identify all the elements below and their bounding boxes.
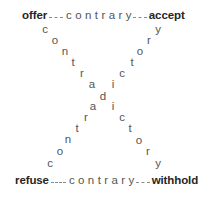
diagonal-letter: c	[119, 68, 125, 80]
diagonal-letter: o	[136, 135, 142, 147]
term-refuse: refuse	[15, 174, 49, 186]
diagonal-letter: n	[65, 134, 71, 146]
diagonal-letter: c	[42, 24, 48, 36]
dashed-connector	[49, 17, 63, 18]
diagonal-letter: n	[62, 46, 68, 58]
diagonal-letter: i	[112, 79, 115, 91]
diagonal-letter: c	[119, 112, 125, 124]
diagonal-letter: r	[80, 68, 84, 80]
diagonal-letter: a	[90, 101, 96, 113]
diagonal-letter: t	[75, 123, 78, 135]
diagonal-letter: o	[57, 146, 63, 158]
term-withhold: withhold	[152, 174, 198, 186]
top-row: offer contrary accept	[22, 8, 185, 22]
diagonal-letter: a	[89, 79, 95, 91]
diagonal-letter: o	[137, 46, 143, 58]
diagonal-letter: d	[100, 91, 106, 103]
diagonal-letter: r	[84, 112, 88, 124]
diagonal-letter: y	[155, 24, 161, 36]
relation-contrary-top: contrary	[66, 9, 135, 21]
diagonal-letter: t	[130, 57, 133, 69]
diagonal-letter: c	[47, 158, 53, 170]
dashed-connector	[133, 17, 147, 18]
diagonal-letter: y	[155, 158, 161, 170]
diagonal-letter: o	[52, 35, 58, 47]
diagonal-letter: r	[147, 35, 151, 47]
diagonal-letter: t	[128, 123, 131, 135]
diagonal-letter: r	[146, 146, 150, 158]
dashed-connector	[51, 182, 66, 183]
bottom-row: refuse contrary withhold	[15, 173, 198, 187]
term-offer: offer	[22, 9, 47, 21]
dashed-connector	[136, 182, 150, 183]
relation-contrary-bottom: contrary	[69, 174, 138, 186]
diagonal-letter: i	[112, 101, 115, 113]
diagonal-letter: t	[71, 57, 74, 69]
term-accept: accept	[149, 9, 185, 21]
